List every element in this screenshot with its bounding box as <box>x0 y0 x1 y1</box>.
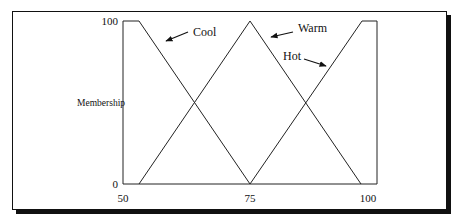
series-label-warm: Warm <box>298 22 327 34</box>
x-tick-75: 75 <box>235 193 265 204</box>
y-tick-0: 0 <box>88 179 118 190</box>
y-axis-label: Membership <box>77 99 125 109</box>
x-tick-50: 50 <box>108 193 138 204</box>
series-cool-line <box>123 21 250 184</box>
x-tick-100: 100 <box>353 193 383 204</box>
hot-arrow-icon <box>304 59 326 66</box>
series-warm-line <box>139 21 361 184</box>
y-tick-100: 100 <box>88 16 118 27</box>
cool-arrow-icon <box>166 32 188 41</box>
series-hot-line <box>250 21 377 184</box>
plot-axes <box>123 21 377 184</box>
series-label-hot: Hot <box>283 50 301 62</box>
membership-chart <box>0 0 458 220</box>
series-label-cool: Cool <box>193 26 216 38</box>
warm-arrow-icon <box>271 32 293 37</box>
